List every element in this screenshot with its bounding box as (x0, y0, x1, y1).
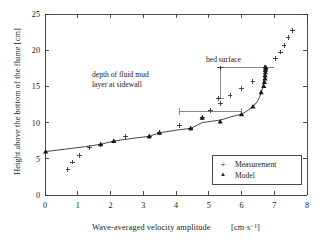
legend-marker-measurement: + (217, 160, 229, 169)
x-tick-label: 3 (141, 201, 145, 210)
chart-figure: 0123456780510152025 Height above the bot… (0, 0, 325, 247)
model-point (259, 90, 264, 95)
legend-label-measurement: Measurement (235, 160, 276, 169)
annotation-depth-line2: layer at sidewall (92, 80, 149, 90)
x-tick-label: 0 (43, 201, 47, 210)
annotation-bed-surface: bed surface (206, 55, 241, 65)
x-tick-label: 2 (108, 201, 112, 210)
legend: + Measurement ▲ Model (212, 155, 302, 185)
model-point (239, 112, 244, 117)
model-point (261, 83, 266, 88)
x-axis-label: Wave-averaged velocity amplitude [cm·s⁻¹… (45, 222, 307, 232)
x-tick-label: 4 (174, 201, 178, 210)
y-tick-label: 0 (36, 191, 40, 200)
annotation-depth-of-fluid-mud: depth of fluid mud layer at sidewall (92, 70, 149, 89)
y-tick-label: 20 (32, 46, 40, 55)
y-tick-label: 10 (32, 119, 40, 128)
legend-label-model: Model (235, 171, 255, 180)
x-tick-label: 7 (272, 201, 276, 210)
y-tick-label: 5 (36, 155, 40, 164)
y-axis-label: Height above the bottom of the flume [cm… (13, 7, 22, 197)
x-tick-label: 8 (305, 201, 309, 210)
x-axis-unit: [cm·s⁻¹] (231, 223, 260, 232)
x-tick-label: 6 (239, 201, 243, 210)
y-tick-label: 15 (32, 82, 40, 91)
model-curve (46, 67, 266, 151)
legend-marker-model: ▲ (217, 171, 229, 177)
x-tick-label: 5 (207, 201, 211, 210)
y-tick-label: 25 (32, 10, 40, 19)
annotation-depth-line1: depth of fluid mud (92, 70, 149, 80)
plot-area: 0123456780510152025 (0, 0, 325, 247)
x-axis-label-text: Wave-averaged velocity amplitude (92, 223, 211, 232)
x-tick-label: 1 (76, 201, 80, 210)
